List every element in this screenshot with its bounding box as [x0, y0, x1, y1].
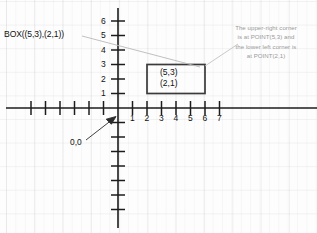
x-tick-label-3: 3 — [159, 114, 164, 123]
y-tick-label-3: 3 — [101, 60, 106, 69]
corner-note-line-2: is at POINT(5,3) and — [218, 32, 314, 41]
x-tick-label-2: 2 — [145, 114, 150, 123]
y-tick-label-6: 6 — [101, 17, 106, 26]
x-tick-label-1: 1 — [130, 114, 135, 123]
corner-note-line-3: the lower left corner is — [218, 42, 314, 51]
y-tick-label-2: 2 — [101, 75, 106, 84]
box-upper-right-label: (5,3) — [160, 68, 177, 77]
box-title-label: BOX((5,3),(2,1)) — [4, 30, 64, 39]
origin-label: 0,0 — [70, 138, 82, 147]
box-title-leader — [82, 36, 200, 67]
box-lower-left-label: (2,1) — [160, 79, 177, 88]
x-tick-label-4: 4 — [174, 114, 179, 123]
corner-note-line-1: The upper-right corner — [218, 23, 314, 32]
corner-note-line-4: at POINT(2,1) — [218, 51, 314, 60]
x-tick-label-7: 7 — [217, 114, 222, 123]
y-tick-label-4: 4 — [101, 46, 106, 55]
corner-note: The upper-right corner is at POINT(5,3) … — [218, 23, 314, 60]
x-tick-label-6: 6 — [203, 114, 208, 123]
x-tick-label-5: 5 — [188, 114, 193, 123]
diagram-canvas: 1 2 3 4 5 6 7 1 2 3 4 5 6 (5,3) (2,1) BO… — [0, 0, 317, 233]
y-tick-label-5: 5 — [101, 31, 106, 40]
y-tick-label-1: 1 — [101, 89, 106, 98]
